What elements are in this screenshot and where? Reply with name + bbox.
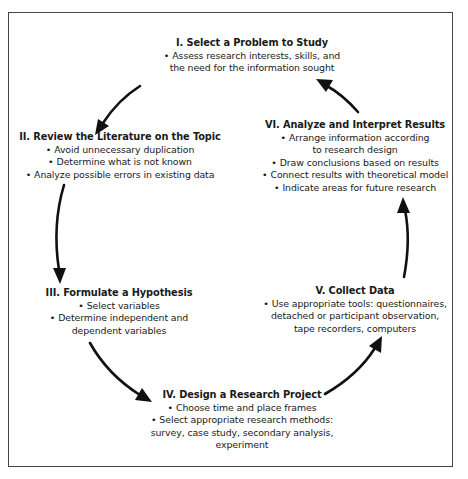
step-item-text: Draw conclusions based on results <box>280 157 439 168</box>
step-item: •Determine what is not known <box>14 156 226 169</box>
step-item: •Use appropriate tools: questionnaires, <box>262 298 448 311</box>
bullet-icon: • <box>168 402 173 413</box>
step-title: I. Select a Problem to Study <box>150 37 354 50</box>
step-item: •Select appropriate research methods: <box>140 414 344 427</box>
step-item: •Choose time and place frames <box>140 402 344 415</box>
step-item-text: tape recorders, computers <box>294 323 416 334</box>
step-item: experiment <box>140 439 344 452</box>
step-item-text: dependent variables <box>72 325 167 336</box>
step-item: •Assess research interests, skills, and <box>150 50 354 63</box>
step-item-text: detached or participant observation, <box>271 310 439 321</box>
step-title: V. Collect Data <box>262 285 448 298</box>
step-item: dependent variables <box>34 325 204 338</box>
step-item: •Connect results with theoretical model <box>262 169 448 182</box>
step-item-text: survey, case study, secondary analysis, <box>151 427 334 438</box>
step-item: to research design <box>262 144 448 157</box>
step-item: •Arrange information according <box>262 132 448 145</box>
bullet-icon: • <box>46 144 51 155</box>
step-title: III. Formulate a Hypothesis <box>34 287 204 300</box>
step-item-text: Choose time and place frames <box>176 402 316 413</box>
step-item-text: experiment <box>216 439 269 450</box>
step-v: V. Collect Data •Use appropriate tools: … <box>262 285 448 335</box>
step-iv: IV. Design a Research Project •Choose ti… <box>140 389 344 452</box>
step-ii: II. Review the Literature on the Topic •… <box>14 131 226 181</box>
step-item-text: to research design <box>312 144 397 155</box>
step-item-text: Indicate areas for future research <box>282 182 436 193</box>
step-item: •Select variables <box>34 300 204 313</box>
step-item-text: Use appropriate tools: questionnaires, <box>272 298 447 309</box>
step-item-text: the need for the information sought <box>170 62 335 73</box>
bullet-icon: • <box>263 298 268 309</box>
step-item: •Indicate areas for future research <box>262 182 448 195</box>
step-item-text: Avoid unnecessary duplication <box>54 144 194 155</box>
step-item-text: Select variables <box>87 300 160 311</box>
step-item-text: Analyze possible errors in existing data <box>34 169 214 180</box>
bullet-icon: • <box>26 169 31 180</box>
step-title: II. Review the Literature on the Topic <box>14 131 226 144</box>
step-item-text: Determine independent and <box>58 312 188 323</box>
step-item-text: Connect results with theoretical model <box>270 169 448 180</box>
bullet-icon: • <box>48 156 53 167</box>
step-item: tape recorders, computers <box>262 323 448 336</box>
step-item-text: Assess research interests, skills, and <box>172 50 340 61</box>
step-title: IV. Design a Research Project <box>140 389 344 402</box>
bullet-icon: • <box>281 132 286 143</box>
step-item: •Analyze possible errors in existing dat… <box>14 169 226 182</box>
step-vi: VI. Analyze and Interpret Results •Arran… <box>262 119 448 195</box>
step-item: •Draw conclusions based on results <box>262 157 448 170</box>
bullet-icon: • <box>151 414 156 425</box>
step-title: VI. Analyze and Interpret Results <box>262 119 448 132</box>
step-item: •Determine independent and <box>34 312 204 325</box>
step-item-text: Determine what is not known <box>57 156 192 167</box>
bullet-icon: • <box>78 300 83 311</box>
step-i: I. Select a Problem to Study •Assess res… <box>150 37 354 75</box>
bullet-icon: • <box>164 50 169 61</box>
bullet-icon: • <box>271 157 276 168</box>
step-item: •Avoid unnecessary duplication <box>14 144 226 157</box>
bullet-icon: • <box>50 312 55 323</box>
step-iii: III. Formulate a Hypothesis •Select vari… <box>34 287 204 337</box>
step-item-text: Arrange information according <box>289 132 429 143</box>
bullet-icon: • <box>274 182 279 193</box>
step-item-text: Select appropriate research methods: <box>159 414 333 425</box>
step-item: survey, case study, secondary analysis, <box>140 427 344 440</box>
bullet-icon: • <box>262 169 267 180</box>
step-item: the need for the information sought <box>150 62 354 75</box>
step-item: detached or participant observation, <box>262 310 448 323</box>
